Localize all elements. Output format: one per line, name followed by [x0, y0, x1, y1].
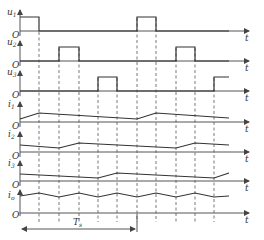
row-u2 — [20, 41, 249, 66]
time-label: t — [245, 154, 249, 164]
row-i3 — [20, 161, 249, 186]
row-i1 — [20, 102, 249, 127]
time-label: t — [245, 93, 249, 103]
period-label: Ts — [73, 217, 82, 228]
origin-label: O — [12, 210, 20, 220]
origin-label: O — [12, 151, 20, 161]
time-label: t — [245, 124, 249, 134]
time-label: t — [245, 215, 249, 225]
origin-label: O — [12, 180, 20, 190]
row-u1 — [20, 10, 249, 36]
row-u3 — [20, 71, 249, 96]
time-label: t — [245, 183, 249, 193]
time-label: t — [245, 33, 249, 43]
row-i0 — [20, 190, 249, 216]
origin-label: O — [12, 60, 20, 70]
origin-label: O — [12, 30, 20, 40]
row-i2 — [20, 132, 249, 157]
guide-lines — [39, 18, 214, 222]
waveform-diagram: u1 u2 u3 i1 i2 i3 io O O O O O O O t t t… — [0, 0, 264, 240]
origin-label: O — [12, 121, 20, 131]
time-label: t — [245, 63, 249, 73]
label-i1: i1 — [8, 99, 15, 110]
label-i0: io — [8, 190, 15, 201]
origin-label: O — [12, 90, 20, 100]
label-u1: u1 — [7, 7, 17, 18]
